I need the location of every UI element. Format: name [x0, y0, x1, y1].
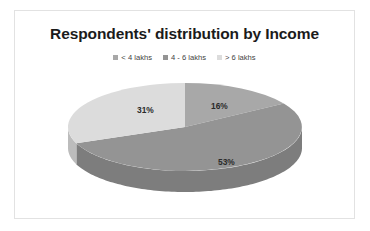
- pie-data-label-gt-6-lakhs: 31%: [137, 105, 154, 115]
- legend-item-label: 4 - 6 lakhs: [171, 53, 206, 62]
- square-swatch-icon: [163, 55, 168, 60]
- legend-item-gt-6-lakhs[interactable]: > 6 lakhs: [217, 53, 256, 62]
- square-swatch-icon: [217, 55, 222, 60]
- pie-data-label-4-6-lakhs: 53%: [218, 157, 235, 167]
- legend-item-label: > 6 lakhs: [225, 53, 256, 62]
- chart-title: Respondents' distribution by Income: [15, 25, 354, 43]
- legend-item-label: < 4 lakhs: [121, 53, 152, 62]
- chart-legend: < 4 lakhs 4 - 6 lakhs > 6 lakhs: [15, 53, 354, 62]
- chart-card: Respondents' distribution by Income < 4 …: [14, 10, 355, 219]
- legend-item-4-6-lakhs[interactable]: 4 - 6 lakhs: [163, 53, 206, 62]
- pie-chart-3d: [55, 69, 315, 205]
- legend-item-lt-4-lakhs[interactable]: < 4 lakhs: [113, 53, 152, 62]
- pie-data-label-lt-4-lakhs: 16%: [211, 101, 228, 111]
- square-swatch-icon: [113, 55, 118, 60]
- pie-top-face: [67, 83, 301, 171]
- pie-plot-area: 16% 53% 31%: [15, 69, 354, 214]
